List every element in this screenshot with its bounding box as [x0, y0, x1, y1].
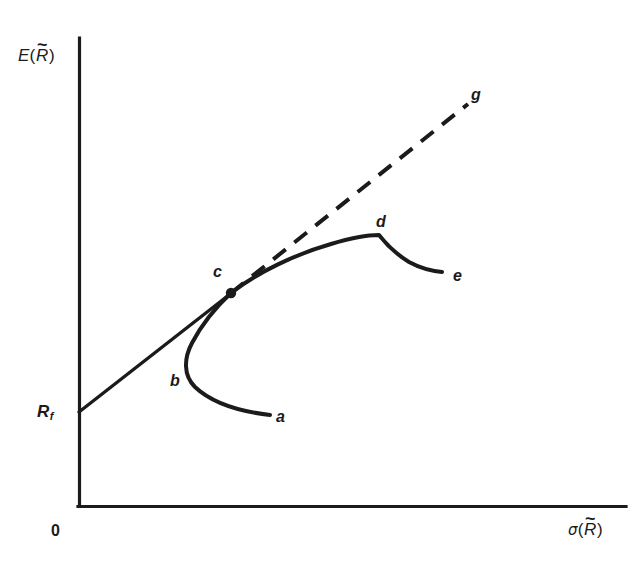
y-axis-label-tilde: ~ — [37, 37, 48, 53]
y-axis-label-var-wrap: ~R — [35, 47, 48, 64]
plot-canvas — [0, 0, 641, 568]
curve-label-d: d — [376, 214, 386, 230]
curve-label-b: b — [170, 373, 180, 389]
x-axis-label: σ(~R) — [568, 521, 603, 538]
x-axis-label-close-paren: ) — [597, 520, 603, 539]
frontier-curve — [186, 235, 442, 415]
risk-free-rate-subscript: f — [49, 410, 53, 422]
risk-free-rate-label: Rf — [37, 403, 53, 422]
y-axis-label: E(~R) — [18, 47, 55, 64]
origin-label: 0 — [51, 523, 60, 539]
curve-label-e: e — [453, 268, 462, 284]
risk-free-rate-letter: R — [37, 402, 49, 421]
x-axis-label-sigma: σ — [568, 521, 578, 539]
axes-group — [78, 38, 626, 507]
curve-label-a: a — [276, 409, 285, 425]
curve-label-c: c — [213, 264, 222, 280]
tangency-point-marker — [226, 288, 236, 298]
x-axis-label-tilde: ~ — [585, 511, 596, 527]
capital-market-line-solid — [79, 291, 234, 412]
capital-market-line-dashed — [231, 104, 468, 293]
x-axis-label-var-wrap: ~R — [584, 521, 597, 538]
curve-label-g: g — [471, 87, 481, 103]
y-axis-label-close-paren: ) — [49, 46, 55, 65]
efficient-frontier-figure: E(~R) σ(~R) 0 Rf a b c d e g — [0, 0, 641, 568]
y-axis-label-e: E — [18, 46, 30, 65]
